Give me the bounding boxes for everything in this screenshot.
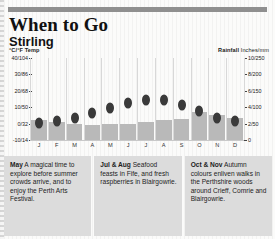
tip-month: Jul & Aug xyxy=(100,161,131,168)
rainfall-bar xyxy=(67,124,83,140)
legend-temperature: °C/°F Temp xyxy=(9,47,40,53)
column-separator xyxy=(244,58,245,140)
temperature-marker xyxy=(178,99,186,110)
y-axis-tick-left: -10/14 xyxy=(13,137,30,143)
y-axis-tick-right: 2/50 xyxy=(244,121,259,127)
temperature-marker xyxy=(53,115,61,126)
temperature-marker xyxy=(71,112,79,123)
chart-month-column: J xyxy=(119,58,137,140)
temperature-marker xyxy=(195,106,203,117)
y-axis-tick-left: 10/50 xyxy=(15,104,31,110)
y-axis-tick-left: 0/32 xyxy=(18,121,31,127)
chart-month-column: D xyxy=(226,58,244,140)
x-axis-month-label: A xyxy=(91,142,95,148)
chart-month-column: J xyxy=(30,58,48,140)
chart-baseline xyxy=(30,140,244,141)
x-axis-month-label: D xyxy=(233,142,237,148)
temperature-marker xyxy=(213,112,221,123)
header-rule xyxy=(8,7,267,12)
legend-rain-word: Rainfall xyxy=(218,47,239,53)
legend-rainfall: Rainfall Inches/mm xyxy=(218,47,269,53)
x-axis-month-label: J xyxy=(38,142,41,148)
x-axis-month-label: A xyxy=(162,142,166,148)
temperature-marker xyxy=(231,115,239,126)
rainfall-bar xyxy=(85,125,101,140)
temperature-marker xyxy=(142,94,150,105)
rainfall-bar xyxy=(102,124,118,140)
tip-box: May A magical time to explore before sum… xyxy=(4,156,91,236)
column-separator-end xyxy=(244,58,245,140)
x-axis-month-label: J xyxy=(145,142,148,148)
temperature-marker xyxy=(124,97,132,108)
legend-temp-word: Temp xyxy=(25,47,40,53)
chart-month-column: N xyxy=(208,58,226,140)
tips-row: May A magical time to explore before sum… xyxy=(4,156,272,236)
x-axis-month-label: J xyxy=(127,142,130,148)
y-axis-tick-right: 8/200 xyxy=(244,71,262,77)
x-axis-month-label: O xyxy=(197,142,201,148)
y-axis-tick-left: 40/104 xyxy=(12,55,31,61)
chart-plot-area: 40/10430/8620/6810/500/32-10/1410/2508/2… xyxy=(30,58,244,140)
chart-month-column: J xyxy=(137,58,155,140)
tip-month: Oct & Nov xyxy=(191,161,223,168)
tip-box: Oct & Nov Autumn colours enliven walks i… xyxy=(185,156,272,236)
temperature-marker xyxy=(106,102,114,113)
chart-month-column: O xyxy=(191,58,209,140)
chart-month-column: S xyxy=(173,58,191,140)
x-axis-month-label: S xyxy=(180,142,184,148)
chart-month-column: F xyxy=(48,58,66,140)
temperature-marker xyxy=(35,117,43,128)
chart-month-column: M xyxy=(66,58,84,140)
rainfall-bar xyxy=(174,119,190,140)
legend-rain-units: Inches/mm xyxy=(241,47,269,53)
rainfall-bar xyxy=(156,120,172,140)
y-axis-tick-right: 4/100 xyxy=(244,104,262,110)
tip-box: Jul & Aug Seafood feasts in Fife, and fr… xyxy=(94,156,181,236)
chart-month-column: A xyxy=(84,58,102,140)
temperature-marker xyxy=(88,107,96,118)
chart-month-column: A xyxy=(155,58,173,140)
x-axis-month-label: F xyxy=(55,142,58,148)
y-axis-tick-right: 6/150 xyxy=(244,88,262,94)
chart-month-column: M xyxy=(101,58,119,140)
legend-temp-units: °C/°F xyxy=(9,47,23,53)
x-axis-month-label: M xyxy=(108,142,113,148)
tip-month: May xyxy=(10,161,23,168)
rainfall-bar xyxy=(138,122,154,140)
x-axis-month-label: M xyxy=(72,142,77,148)
page-title: When to Go xyxy=(9,14,108,36)
y-axis-tick-left: 30/86 xyxy=(15,71,31,77)
y-axis-tick-left: 20/68 xyxy=(15,88,31,94)
rainfall-bar xyxy=(120,124,136,140)
y-axis-tick-right: 10/250 xyxy=(244,55,265,61)
climate-chart: 40/10430/8620/6810/500/32-10/1410/2508/2… xyxy=(0,56,275,148)
x-axis-month-label: N xyxy=(215,142,219,148)
temperature-marker xyxy=(160,94,168,105)
y-axis-tick-right: 0 xyxy=(244,137,251,143)
